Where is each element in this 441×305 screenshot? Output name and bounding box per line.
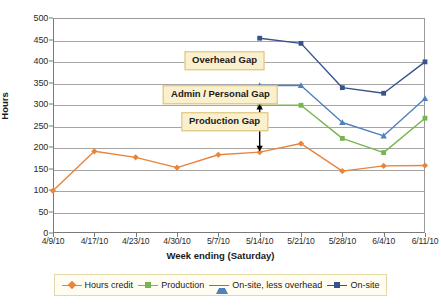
- y-tick-mark: [49, 82, 53, 83]
- legend-marker-icon: [209, 280, 229, 290]
- y-tick-label: 300: [18, 99, 48, 109]
- legend-label: Production: [161, 280, 204, 290]
- y-tick-label: 250: [18, 121, 48, 131]
- legend-marker-icon: [62, 280, 82, 290]
- y-tick-label: 400: [18, 56, 48, 66]
- y-tick-mark: [49, 190, 53, 191]
- legend-label: Hours credit: [85, 280, 134, 290]
- chart-legend: Hours creditProductionOn-site, less over…: [54, 274, 387, 296]
- annotation-admin-personal-gap: Admin / Personal Gap: [163, 85, 278, 104]
- gridline: [54, 105, 424, 106]
- y-tick-label: 50: [18, 207, 48, 217]
- legend-marker-icon: [327, 280, 347, 290]
- y-tick-label: 500: [18, 13, 48, 23]
- x-tick-label: 4/17/10: [81, 236, 108, 246]
- y-tick-label: 100: [18, 185, 48, 195]
- y-tick-label: 200: [18, 142, 48, 152]
- gridline: [54, 191, 424, 192]
- legend-item-hours-credit[interactable]: Hours credit: [62, 280, 134, 290]
- gridline: [54, 41, 424, 42]
- y-tick-mark: [49, 61, 53, 62]
- x-tick-label: 6/4/10: [372, 236, 395, 246]
- x-tick-label: 5/28/10: [329, 236, 356, 246]
- y-axis-title: Hours: [0, 92, 10, 119]
- legend-label: On-site: [350, 280, 379, 290]
- legend-item-on-site[interactable]: On-site: [327, 280, 379, 290]
- y-tick-mark: [49, 168, 53, 169]
- legend-marker-icon: [138, 280, 158, 290]
- x-tick-label: 4/9/10: [42, 236, 65, 246]
- annotation-overhead-gap: Overhead Gap: [184, 51, 265, 70]
- x-tick-label: 5/14/10: [246, 236, 273, 246]
- legend-item-production[interactable]: Production: [138, 280, 204, 290]
- y-tick-label: 150: [18, 164, 48, 174]
- x-axis-title: Week ending (Saturday): [0, 250, 441, 261]
- legend-label: On-site, less overhead: [232, 280, 322, 290]
- legend-item-on-site-less-overhead[interactable]: On-site, less overhead: [209, 280, 322, 290]
- gridline: [54, 170, 424, 171]
- x-tick-label: 5/21/10: [287, 236, 314, 246]
- y-tick-mark: [49, 18, 53, 19]
- chart-container: Hours 0501001502002503003504004505004/9/…: [0, 0, 441, 305]
- x-tick-label: 4/23/10: [122, 236, 149, 246]
- x-tick-label: 4/30/10: [163, 236, 190, 246]
- y-tick-mark: [49, 39, 53, 40]
- y-tick-mark: [49, 147, 53, 148]
- y-tick-label: 450: [18, 35, 48, 45]
- gridline: [54, 213, 424, 214]
- y-tick-mark: [49, 125, 53, 126]
- x-tick-label: 5/7/10: [207, 236, 230, 246]
- y-tick-label: 350: [18, 78, 48, 88]
- gridline: [54, 148, 424, 149]
- x-tick-label: 6/11/10: [412, 236, 439, 246]
- y-tick-mark: [49, 104, 53, 105]
- annotation-production-gap: Production Gap: [181, 112, 268, 131]
- y-tick-mark: [49, 211, 53, 212]
